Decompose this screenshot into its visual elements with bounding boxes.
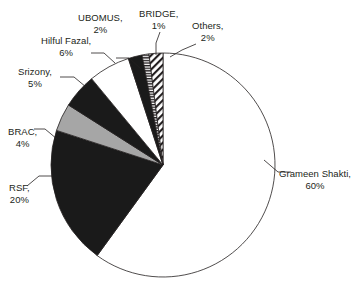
pie-slice-group xyxy=(51,53,275,277)
slice-label-rsf: RSF, 20% xyxy=(9,182,30,205)
slice-label-others-name: Others, xyxy=(192,20,224,32)
leader-line-brac xyxy=(34,129,57,139)
slice-label-grameen-shakti-name: Grameen Shakti, xyxy=(279,168,351,180)
slice-label-hilful-fazal-percent: 6% xyxy=(41,47,91,59)
leader-line-bridge xyxy=(156,32,160,55)
slice-label-ubomus-name: UBOMUS, xyxy=(78,12,123,24)
slice-label-bridge: BRIDGE, 1% xyxy=(139,8,178,31)
slice-label-others: Others, 2% xyxy=(192,20,224,43)
slice-label-bridge-name: BRIDGE, xyxy=(139,8,178,20)
slice-label-grameen-shakti-percent: 60% xyxy=(279,180,351,192)
slice-label-srizony-percent: 5% xyxy=(18,78,52,90)
slice-label-rsf-percent: 20% xyxy=(9,194,30,206)
slice-label-brac-name: BRAC, xyxy=(8,126,37,138)
slice-label-srizony: Srizony, 5% xyxy=(18,66,52,89)
leader-line-rsf xyxy=(27,176,53,186)
slice-label-others-percent: 2% xyxy=(192,32,224,44)
pie-chart: UBOMUS, 2% BRIDGE, 1% Others, 2% Hilful … xyxy=(0,0,364,296)
slice-label-grameen-shakti: Grameen Shakti, 60% xyxy=(279,168,351,191)
slice-label-rsf-name: RSF, xyxy=(9,182,30,194)
slice-label-ubomus-percent: 2% xyxy=(78,24,123,36)
slice-label-hilful-fazal-name: Hilful Fazal, xyxy=(41,35,91,47)
slice-label-bridge-percent: 1% xyxy=(139,20,178,32)
leader-line-hilful xyxy=(91,53,115,63)
slice-label-srizony-name: Srizony, xyxy=(18,66,52,78)
slice-label-brac-percent: 4% xyxy=(8,138,37,150)
slice-label-hilful-fazal: Hilful Fazal, 6% xyxy=(41,35,91,58)
slice-label-brac: BRAC, 4% xyxy=(8,126,37,149)
slice-label-ubomus: UBOMUS, 2% xyxy=(78,12,123,35)
leader-line-srizony xyxy=(60,77,86,87)
